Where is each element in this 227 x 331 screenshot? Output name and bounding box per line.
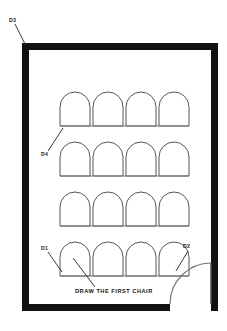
chair-r3-c1[interactable] (60, 192, 90, 226)
dim-label-d4: D4 (41, 151, 48, 157)
dim-label-d2: D2 (183, 243, 190, 249)
chair-r4-c1-first-chair[interactable] (60, 242, 90, 276)
chair-r2-c1[interactable] (60, 142, 90, 176)
chair-row-4 (60, 242, 189, 276)
chair-r3-c2[interactable] (93, 192, 123, 226)
caption-draw-the-first-chair: DRAW THE FIRST CHAIR (75, 288, 153, 294)
chair-r1-c2[interactable] (93, 92, 123, 126)
chair-r4-c3[interactable] (126, 242, 156, 276)
chair-r1-c3[interactable] (126, 92, 156, 126)
wall-top (22, 43, 218, 50)
floor-plan-drawing: D3 D4 D1 D2 DRAW THE FIRST CHAIR (0, 0, 227, 331)
dim-label-d3: D3 (9, 17, 16, 23)
chair-row-1 (60, 92, 189, 126)
plan-canvas: D3 D4 D1 D2 DRAW THE FIRST CHAIR (0, 0, 227, 331)
chair-r2-c4[interactable] (159, 142, 189, 176)
chair-row-2 (60, 142, 189, 176)
dim-label-d1: D1 (41, 245, 48, 251)
d3-leader-line (15, 24, 25, 44)
chair-r1-c1[interactable] (60, 92, 90, 126)
chair-r3-c3[interactable] (126, 192, 156, 226)
chair-row-3 (60, 192, 189, 226)
chair-r4-c2[interactable] (93, 242, 123, 276)
chair-r2-c3[interactable] (126, 142, 156, 176)
chair-r2-c2[interactable] (93, 142, 123, 176)
d4-leader-line (48, 128, 63, 151)
seating-area (60, 92, 189, 276)
wall-bottom-right (211, 304, 218, 311)
wall-right (211, 43, 218, 311)
chair-r3-c4[interactable] (159, 192, 189, 226)
chair-r1-c4[interactable] (159, 92, 189, 126)
wall-bottom-left (22, 304, 170, 311)
wall-left (22, 43, 29, 311)
